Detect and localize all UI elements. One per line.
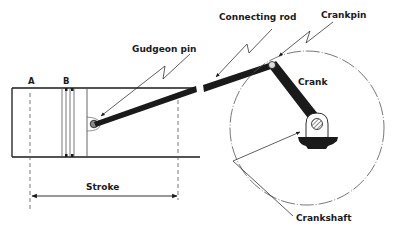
crankshaft-journal-icon: [312, 119, 323, 130]
piston-ring: [65, 88, 68, 91]
crankpin-icon: [269, 62, 276, 69]
crankshaft-bearing: [298, 113, 338, 149]
piston-ring: [65, 154, 68, 157]
connecting-rod-segment: [94, 86, 197, 127]
bearing-base: [298, 137, 338, 149]
position-a-label: A: [28, 76, 35, 86]
piston-ring: [71, 88, 74, 91]
crank-mechanism-diagram: A B Stroke Gudgeon pin Connecting rod Cr…: [0, 0, 406, 234]
position-b-label: B: [63, 76, 69, 86]
gudgeon-pin-label: Gudgeon pin: [132, 44, 196, 54]
crankshaft-label: Crankshaft: [296, 213, 352, 223]
crankpin-label: Crankpin: [321, 10, 366, 20]
stroke-label: Stroke: [86, 182, 119, 192]
connecting-rod: [94, 62, 274, 127]
piston-ring: [71, 154, 74, 157]
crank-label: Crank: [298, 77, 329, 87]
connecting-rod-segment: [203, 62, 274, 92]
connecting-rod-label: Connecting rod: [219, 12, 296, 22]
